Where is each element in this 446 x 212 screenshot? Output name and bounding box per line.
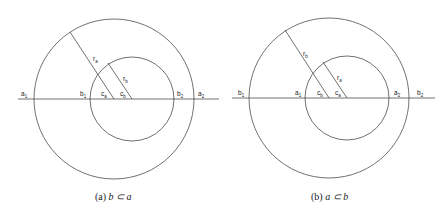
panel-a-labels: a1 b1 ca cb b2 a2 ra rb (a) b ⊂ a — [21, 55, 205, 203]
caption-a: (a) b ⊂ a — [95, 191, 132, 203]
label-cb: cb — [317, 89, 323, 98]
label-ca: ca — [101, 90, 107, 99]
label-b2: b2 — [177, 90, 184, 99]
diagram-canvas: a1 b1 ca cb b2 a2 ra rb (a) b ⊂ a b1 a1 … — [0, 0, 446, 212]
panel-b-labels: b1 a1 cb ca a2 b2 rb ra (b) a ⊂ b — [238, 50, 424, 203]
label-a2: a2 — [394, 89, 401, 98]
label-ra: ra — [93, 55, 98, 64]
panel-b — [232, 18, 435, 178]
label-a1: a1 — [295, 89, 302, 98]
panel-a — [18, 19, 219, 179]
label-b1: b1 — [80, 90, 87, 99]
label-ra: ra — [337, 74, 342, 83]
label-ca: ca — [335, 89, 341, 98]
label-rb: rb — [303, 50, 308, 59]
label-b2: b2 — [417, 89, 424, 98]
label-a1: a1 — [21, 90, 28, 99]
label-b1: b1 — [238, 89, 245, 98]
caption-b: (b) a ⊂ b — [311, 191, 348, 203]
label-cb: cb — [120, 90, 126, 99]
radius-line-ra — [70, 32, 114, 99]
label-rb: rb — [123, 75, 128, 84]
label-a2: a2 — [198, 90, 205, 99]
